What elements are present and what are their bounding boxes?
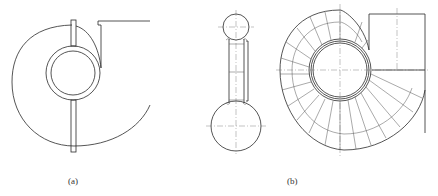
inlet-outer-ring — [46, 46, 100, 100]
outlet-flange — [98, 21, 150, 25]
panel-label-a: (a) — [68, 176, 78, 186]
side-tube-bands — [229, 44, 244, 100]
figure-a-volute — [12, 20, 150, 152]
divider-plate-top — [71, 20, 76, 46]
radial-segment-lines — [280, 10, 422, 150]
front-centerlines — [276, 4, 430, 156]
side-centerlines — [206, 10, 266, 154]
figure-b-front-view — [276, 4, 430, 156]
side-flange-strip — [246, 41, 248, 101]
panel-label-b: (b) — [287, 176, 298, 186]
volute-outer-wall — [12, 25, 150, 146]
side-tube — [229, 39, 244, 103]
figure-b-side-view — [206, 10, 266, 154]
technical-drawing — [0, 0, 438, 196]
inlet-inner-ring — [51, 51, 95, 95]
divider-plate-bottom — [71, 100, 76, 152]
